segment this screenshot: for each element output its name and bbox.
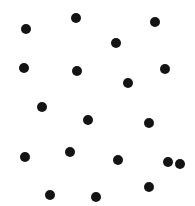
dot-marker — [65, 147, 75, 157]
dot-marker — [37, 102, 47, 112]
dot-marker — [163, 157, 173, 167]
dot-marker — [111, 38, 121, 48]
dot-marker — [113, 155, 123, 165]
dot-marker — [175, 159, 185, 169]
dot-marker — [72, 66, 82, 76]
dot-marker — [83, 115, 93, 125]
dot-marker — [19, 63, 29, 73]
dot-marker — [144, 182, 154, 192]
dot-marker — [91, 192, 101, 202]
dot-marker — [21, 24, 31, 34]
dot-marker — [160, 64, 170, 74]
dot-marker — [20, 152, 30, 162]
dot-marker — [123, 78, 133, 88]
dot-marker — [71, 13, 81, 23]
dot-marker — [45, 190, 55, 200]
dot-marker — [150, 17, 160, 27]
dot-marker — [144, 118, 154, 128]
dot-pattern-canvas — [0, 0, 195, 206]
